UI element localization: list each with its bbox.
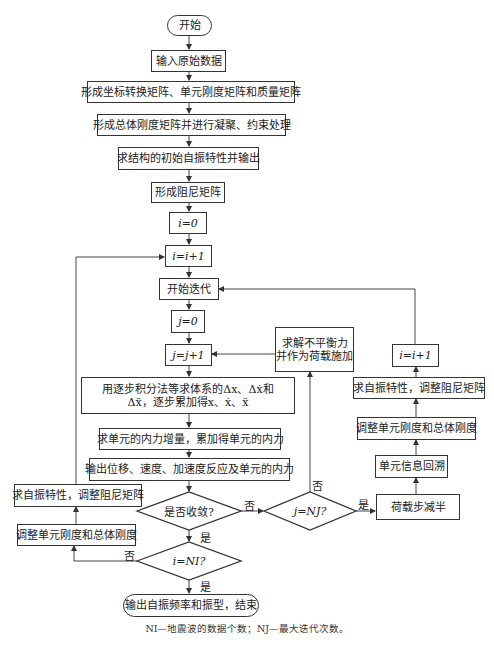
yes-label-converged: 是 bbox=[200, 529, 211, 545]
iteration-start-step: 开始迭代 bbox=[159, 278, 219, 300]
j-nj-decision: j=NJ? bbox=[264, 492, 356, 530]
converged-decision: 是否收敛? bbox=[137, 492, 241, 530]
initial-vibration-step: 求结构的初始自振特性并输出 bbox=[118, 147, 259, 170]
yes-label-ni: 是 bbox=[200, 578, 211, 594]
input-data-step: 输入原始数据 bbox=[151, 50, 226, 72]
no-label-converged: 否 bbox=[244, 497, 255, 513]
damping-matrix-step: 形成阻尼矩阵 bbox=[151, 182, 225, 203]
i-init-step: i=0 bbox=[169, 212, 207, 234]
i-increment-step: i=i+1 bbox=[165, 245, 212, 267]
output-response-step: 输出位移、速度、加速度反应及单元的内力 bbox=[89, 458, 290, 481]
unbalanced-line-2: 并作为荷载施加 bbox=[276, 350, 353, 363]
right-vibration-step: 求自振特性，调整阻尼矩阵 bbox=[353, 377, 485, 399]
end-terminal: 输出自振频率和振型，结束 bbox=[123, 594, 259, 617]
internal-force-step: 求单元的内力增量，累加得单元的内力 bbox=[99, 428, 281, 450]
form-matrices-step: 形成坐标转换矩阵、单元刚度矩阵和质量矩阵 bbox=[87, 81, 295, 103]
unbalanced-force-step: 求解不平衡力 并作为荷载施加 bbox=[275, 327, 354, 372]
j-init-step: j=0 bbox=[171, 310, 205, 333]
backtrack-step: 单元信息回溯 bbox=[375, 455, 448, 478]
halve-load-step: 荷载步减半 bbox=[376, 494, 460, 520]
left-vibration-step: 求自振特性，调整阻尼矩阵 bbox=[14, 484, 142, 507]
right-stiffness-step: 调整单元刚度和总体刚度 bbox=[357, 417, 476, 440]
integration-line-2: Δẍ，逐步累加得x、ẋ、ẍ bbox=[128, 396, 249, 409]
right-i-increment-step: i=i+1 bbox=[392, 344, 439, 367]
start-terminal: 开始 bbox=[167, 15, 212, 36]
left-stiffness-step: 调整单元刚度和总体刚度 bbox=[17, 524, 136, 546]
i-ni-decision: i=NI? bbox=[137, 542, 241, 580]
integration-line-1: 用逐步积分法等求体系的Δx、Δẋ和 bbox=[102, 383, 273, 396]
j-increment-step: j=j+1 bbox=[165, 344, 212, 366]
step-integration-step: 用逐步积分法等求体系的Δx、Δẋ和 Δẍ，逐步累加得x、ẋ、ẍ bbox=[81, 377, 295, 414]
unbalanced-line-1: 求解不平衡力 bbox=[282, 337, 348, 350]
no-label-ni: 否 bbox=[124, 547, 135, 563]
no-label-nj: 否 bbox=[312, 477, 323, 493]
yes-label-nj: 是 bbox=[358, 496, 369, 512]
global-stiffness-step: 形成总体刚度矩阵并进行凝聚、约束处理 bbox=[97, 114, 286, 136]
footnote: NI—地震波的数据个数；NJ—最大迭代次数。 bbox=[0, 621, 494, 635]
